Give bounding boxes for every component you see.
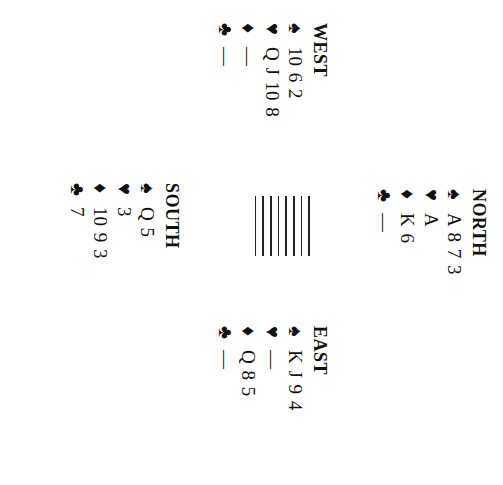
suit-row-diamonds: ♦— (237, 23, 261, 117)
heart-icon: ♥ (261, 326, 285, 350)
divider-line (255, 196, 257, 256)
cards: — (237, 47, 261, 66)
club-icon: ♣ (214, 23, 238, 47)
diamond-icon: ♦ (237, 326, 261, 350)
cards: 3 (113, 207, 137, 217)
spade-icon: ♠ (136, 183, 160, 207)
suit-row-spades: ♠Q 5 (136, 183, 160, 259)
suit-row-diamonds: ♦Q 8 5 (237, 326, 261, 410)
diamond-icon: ♦ (237, 23, 261, 47)
diamond-icon: ♦ (89, 183, 113, 207)
suit-row-clubs: ♣— (214, 23, 238, 117)
divider-line (293, 196, 295, 256)
club-icon: ♣ (66, 183, 90, 207)
suit-row-clubs: ♣7 (66, 183, 90, 259)
cards: 10 9 3 (89, 207, 113, 259)
diamond-icon: ♦ (396, 189, 420, 213)
club-icon: ♣ (214, 326, 238, 350)
table-center (249, 196, 311, 256)
cards: K J 9 4 (284, 350, 308, 410)
divider-line (278, 196, 280, 256)
cards: — (373, 213, 397, 232)
heart-icon: ♥ (261, 23, 285, 47)
suit-row-hearts: ♥3 (113, 183, 137, 259)
divider-line (285, 196, 287, 256)
cards: 7 (66, 207, 90, 217)
cards: Q 8 5 (237, 350, 261, 396)
bridge-deal-diagram: NORTH ♠A 8 7 3 ♥A ♦K 6 ♣— WEST ♠10 6 2 ♥… (0, 0, 503, 485)
suit-row-hearts: ♥Q J 10 8 (261, 23, 285, 117)
hand-title: EAST (308, 326, 332, 410)
cards: 10 6 2 (284, 47, 308, 99)
hand-title: NORTH (467, 189, 491, 274)
suit-row-spades: ♠A 8 7 3 (443, 189, 467, 274)
cards: — (214, 47, 238, 66)
cards: A 8 7 3 (443, 213, 467, 274)
cards: Q J 10 8 (261, 47, 285, 117)
suit-row-clubs: ♣— (214, 326, 238, 410)
suit-row-hearts: ♥— (261, 326, 285, 410)
hand-title: WEST (308, 23, 332, 117)
divider-line (301, 196, 303, 256)
suit-row-spades: ♠K J 9 4 (284, 326, 308, 410)
heart-icon: ♥ (420, 189, 444, 213)
cards: — (261, 350, 285, 369)
hand-title: SOUTH (160, 183, 184, 259)
cards: — (214, 350, 238, 369)
cards: A (420, 213, 444, 227)
hand-south: SOUTH ♠Q 5 ♥3 ♦10 9 3 ♣7 (66, 183, 184, 259)
club-icon: ♣ (373, 189, 397, 213)
spade-icon: ♠ (284, 326, 308, 350)
divider-line (270, 196, 272, 256)
suit-row-hearts: ♥A (420, 189, 444, 274)
hand-east: EAST ♠K J 9 4 ♥— ♦Q 8 5 ♣— (214, 326, 332, 410)
divider-line (262, 196, 264, 256)
suit-row-diamonds: ♦K 6 (396, 189, 420, 274)
cards: Q 5 (136, 207, 160, 237)
cards: K 6 (396, 213, 420, 243)
suit-row-diamonds: ♦10 9 3 (89, 183, 113, 259)
heart-icon: ♥ (113, 183, 137, 207)
suit-row-clubs: ♣— (373, 189, 397, 274)
hand-west: WEST ♠10 6 2 ♥Q J 10 8 ♦— ♣— (214, 23, 332, 117)
divider-line (308, 196, 310, 256)
spade-icon: ♠ (284, 23, 308, 47)
suit-row-spades: ♠10 6 2 (284, 23, 308, 117)
hand-north: NORTH ♠A 8 7 3 ♥A ♦K 6 ♣— (373, 189, 491, 274)
spade-icon: ♠ (443, 189, 467, 213)
